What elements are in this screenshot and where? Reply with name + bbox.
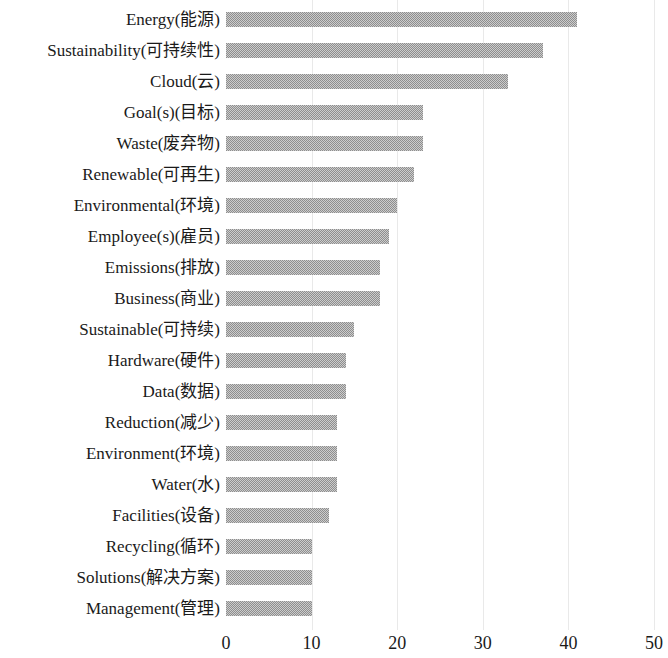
- category-label: Solutions(解决方案): [0, 562, 220, 593]
- x-tick-label: 30: [474, 630, 492, 656]
- x-tick-label: 20: [388, 630, 406, 656]
- bar-row: Solutions(解决方案): [0, 562, 668, 593]
- bar: [226, 198, 397, 213]
- bar: [226, 291, 380, 306]
- category-label: Hardware(硬件): [0, 345, 220, 376]
- category-label: Employee(s)(雇员): [0, 221, 220, 252]
- bar-row: Business(商业): [0, 283, 668, 314]
- category-label: Energy(能源): [0, 4, 220, 35]
- bar: [226, 415, 337, 430]
- x-tick-label: 10: [303, 630, 321, 656]
- bar: [226, 136, 423, 151]
- category-label: Recycling(循环): [0, 531, 220, 562]
- category-label: Reduction(减少): [0, 407, 220, 438]
- bar-row: Energy(能源): [0, 4, 668, 35]
- bar-row: Renewable(可再生): [0, 159, 668, 190]
- x-tick-label: 0: [222, 630, 231, 656]
- category-label: Sustainability(可持续性): [0, 35, 220, 66]
- bar: [226, 105, 423, 120]
- bar: [226, 601, 312, 616]
- bar-row: Cloud(云): [0, 66, 668, 97]
- bar-row: Environment(环境): [0, 438, 668, 469]
- bar: [226, 539, 312, 554]
- category-label: Sustainable(可持续): [0, 314, 220, 345]
- bar: [226, 167, 414, 182]
- bar: [226, 74, 508, 89]
- bar-row: Management(管理): [0, 593, 668, 624]
- category-label: Emissions(排放): [0, 252, 220, 283]
- category-label: Environmental(环境): [0, 190, 220, 221]
- x-tick-label: 50: [645, 630, 663, 656]
- bar-row: Recycling(循环): [0, 531, 668, 562]
- category-label: Environment(环境): [0, 438, 220, 469]
- category-label: Water(水): [0, 469, 220, 500]
- bar-row: Sustainable(可持续): [0, 314, 668, 345]
- bar: [226, 229, 389, 244]
- bar-row: Employee(s)(雇员): [0, 221, 668, 252]
- x-tick-label: 40: [559, 630, 577, 656]
- category-label: Data(数据): [0, 376, 220, 407]
- category-label: Business(商业): [0, 283, 220, 314]
- bar-row: Emissions(排放): [0, 252, 668, 283]
- bar: [226, 477, 337, 492]
- plot-area: Energy(能源)Sustainability(可持续性)Cloud(云)Go…: [0, 0, 668, 630]
- bar: [226, 570, 312, 585]
- bar: [226, 12, 577, 27]
- bar-row: Sustainability(可持续性): [0, 35, 668, 66]
- bar: [226, 446, 337, 461]
- bar-row: Facilities(设备): [0, 500, 668, 531]
- bar-row: Waste(废弃物): [0, 128, 668, 159]
- category-label: Management(管理): [0, 593, 220, 624]
- x-axis: 01020304050: [0, 630, 668, 658]
- horizontal-bar-chart: Energy(能源)Sustainability(可持续性)Cloud(云)Go…: [0, 0, 668, 658]
- bar-row: Data(数据): [0, 376, 668, 407]
- bar: [226, 384, 346, 399]
- category-label: Renewable(可再生): [0, 159, 220, 190]
- bar: [226, 353, 346, 368]
- bar-row: Reduction(减少): [0, 407, 668, 438]
- category-label: Waste(废弃物): [0, 128, 220, 159]
- bar: [226, 43, 543, 58]
- bar: [226, 260, 380, 275]
- category-label: Facilities(设备): [0, 500, 220, 531]
- bar: [226, 508, 329, 523]
- bar-row: Hardware(硬件): [0, 345, 668, 376]
- category-label: Cloud(云): [0, 66, 220, 97]
- bar-row: Goal(s)(目标): [0, 97, 668, 128]
- bar-row: Water(水): [0, 469, 668, 500]
- category-label: Goal(s)(目标): [0, 97, 220, 128]
- bar-row: Environmental(环境): [0, 190, 668, 221]
- bar: [226, 322, 354, 337]
